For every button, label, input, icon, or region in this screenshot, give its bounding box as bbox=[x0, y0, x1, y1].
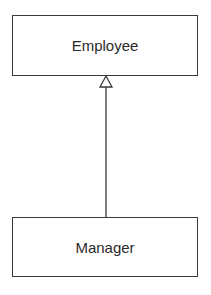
class-name-manager: Manager bbox=[75, 239, 134, 256]
class-box-manager: Manager bbox=[12, 217, 198, 277]
hollow-triangle-arrowhead-icon bbox=[100, 76, 112, 87]
